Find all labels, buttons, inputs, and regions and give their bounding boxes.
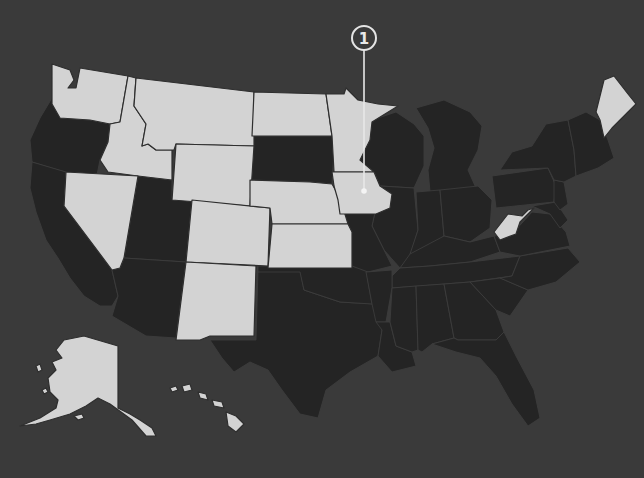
state-alaska-island[interactable] (36, 364, 42, 372)
state-colorado[interactable] (186, 200, 270, 266)
us-map: 1 (0, 0, 644, 478)
state-maine[interactable] (596, 76, 636, 138)
state-new-jersey[interactable] (554, 180, 568, 210)
state-south-dakota[interactable] (250, 136, 334, 184)
state-new-mexico[interactable] (176, 262, 256, 340)
state-arizona[interactable] (112, 258, 186, 338)
state-alaska[interactable] (20, 336, 156, 436)
state-alaska-island[interactable] (74, 414, 84, 420)
state-florida[interactable] (432, 332, 540, 426)
state-kansas[interactable] (268, 224, 352, 268)
state-montana[interactable] (134, 78, 254, 150)
callout-target-dot (361, 188, 367, 194)
callout-marker-label: 1 (359, 30, 369, 48)
state-wyoming[interactable] (172, 144, 254, 206)
state-hawaii[interactable] (170, 384, 244, 432)
state-ohio[interactable] (440, 186, 492, 242)
state-north-dakota[interactable] (252, 92, 332, 136)
state-michigan[interactable] (416, 100, 482, 192)
state-washington[interactable] (52, 64, 128, 124)
state-alaska-island[interactable] (42, 388, 48, 394)
map-canvas: 1 (0, 0, 644, 478)
state-pennsylvania[interactable] (492, 168, 556, 208)
